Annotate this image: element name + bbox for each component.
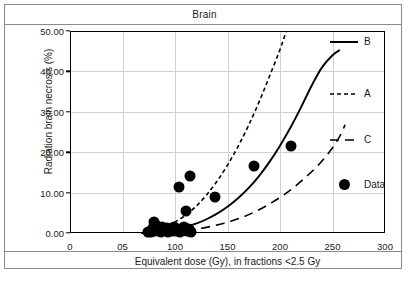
legend-item-a[interactable]: A bbox=[330, 88, 400, 99]
legend-label: Data bbox=[364, 179, 385, 190]
data-point bbox=[180, 205, 191, 216]
legend-marker-circle-icon bbox=[330, 179, 358, 190]
legend-label: B bbox=[364, 36, 371, 47]
chart-title: Brain bbox=[0, 9, 409, 20]
data-point bbox=[174, 182, 185, 193]
legend-item-c[interactable]: C bbox=[330, 134, 400, 145]
curve-a bbox=[141, 31, 286, 233]
legend: BACData bbox=[330, 36, 400, 196]
legend-line-swatch-b bbox=[330, 37, 358, 47]
legend-line-swatch-c bbox=[330, 135, 358, 145]
data-point bbox=[285, 140, 296, 151]
y-tick-label: 50.00 bbox=[40, 26, 64, 37]
x-axis-label: Equivalent dose (Gy), in fractions <2.5 … bbox=[70, 256, 385, 267]
legend-item-data[interactable]: Data bbox=[330, 179, 400, 190]
y-tick-label: 40.00 bbox=[40, 66, 64, 77]
legend-line-swatch-a bbox=[330, 89, 358, 99]
data-point bbox=[184, 171, 195, 182]
legend-item-b[interactable]: B bbox=[330, 36, 400, 47]
legend-label: C bbox=[364, 134, 371, 145]
y-tick-label: 30.00 bbox=[40, 106, 64, 117]
y-tick-label: 10.00 bbox=[40, 187, 64, 198]
y-tick-label: 20.00 bbox=[40, 147, 64, 158]
chart-figure: Brain Radiation brain necrosis (%) 0.001… bbox=[0, 0, 409, 284]
legend-label: A bbox=[364, 88, 371, 99]
xlabel-divider bbox=[5, 251, 401, 252]
y-tick-label: 0.00 bbox=[46, 228, 65, 239]
data-point bbox=[248, 160, 259, 171]
data-point bbox=[209, 191, 220, 202]
title-divider bbox=[5, 24, 401, 25]
data-point bbox=[185, 226, 196, 237]
curve-c bbox=[141, 125, 345, 233]
